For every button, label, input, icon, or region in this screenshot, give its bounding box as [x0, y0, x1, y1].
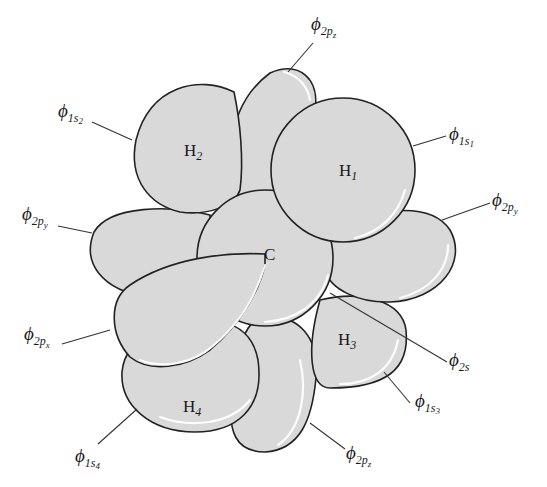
label-phi-1s3: ϕ1s3 — [415, 390, 441, 416]
label-phi-2py-left: ϕ2py — [22, 203, 48, 230]
leader-line — [288, 43, 313, 72]
leader-line — [413, 136, 446, 146]
label-phi-2pz-top: ϕ2pz — [311, 13, 337, 40]
label-phi-2py-right: ϕ2py — [492, 189, 518, 216]
label-phi-2pz-bottom: ϕ2pz — [346, 442, 372, 469]
methane-orbital-diagram: C H1 H2 H3 H4 ϕ2pz ϕ1s2 ϕ1s1 ϕ2py ϕ2py ϕ… — [0, 0, 547, 487]
label-phi-1s4: ϕ1s4 — [75, 445, 101, 471]
label-phi-1s2: ϕ1s2 — [58, 100, 84, 126]
leader-line — [62, 330, 110, 344]
label-phi-1s1: ϕ1s1 — [449, 123, 474, 149]
label-phi-2s: ϕ2s — [449, 349, 470, 374]
leader-line — [98, 409, 137, 444]
atom-label-carbon: C — [264, 245, 275, 264]
leader-line — [310, 423, 345, 449]
leader-line — [384, 372, 410, 403]
leader-line — [92, 122, 132, 140]
leader-line — [442, 203, 490, 220]
leader-line — [58, 226, 92, 233]
label-phi-2px: ϕ2px — [24, 323, 50, 350]
